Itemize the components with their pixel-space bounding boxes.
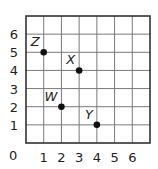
chart-svg: 123456 123456 0 ZXWY — [0, 0, 158, 169]
point-label: X — [65, 52, 76, 67]
origin-label: 0 — [9, 148, 17, 163]
point-marker — [76, 67, 83, 74]
x-tick-label: 1 — [40, 150, 48, 165]
x-axis-ticks: 123456 — [40, 150, 137, 165]
y-tick-label: 6 — [10, 27, 18, 42]
y-tick-label: 2 — [10, 100, 18, 115]
y-axis-ticks: 123456 — [10, 27, 18, 133]
y-tick-label: 3 — [10, 82, 18, 97]
x-tick-label: 3 — [75, 150, 83, 165]
point-marker — [40, 49, 47, 56]
x-tick-label: 2 — [57, 150, 65, 165]
y-tick-label: 1 — [10, 118, 18, 133]
point-marker — [94, 122, 101, 129]
data-points: ZXWY — [30, 34, 100, 128]
x-tick-label: 6 — [128, 150, 136, 165]
point-label: Z — [30, 34, 41, 49]
y-tick-label: 5 — [10, 45, 18, 60]
y-tick-label: 4 — [10, 63, 18, 78]
x-tick-label: 5 — [110, 150, 118, 165]
x-tick-label: 4 — [93, 150, 101, 165]
grid-lines — [26, 16, 150, 143]
point-label: W — [45, 89, 59, 104]
point-marker — [58, 103, 65, 110]
grid-frame — [26, 16, 150, 143]
point-label: Y — [85, 107, 94, 122]
